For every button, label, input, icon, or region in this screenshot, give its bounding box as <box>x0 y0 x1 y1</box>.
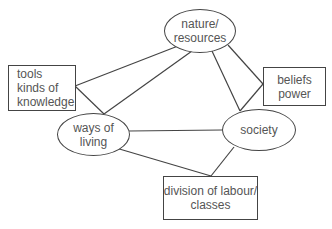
edge-beliefs-society <box>240 84 263 111</box>
node-label-line: living <box>80 135 107 149</box>
node-label-line: power <box>278 87 311 101</box>
node-label-line: tools <box>17 67 42 81</box>
node-label-line: beliefs <box>277 73 312 87</box>
edge-nature-society <box>212 51 240 111</box>
node-label-line: ways of <box>73 121 114 135</box>
edge-tools-ways <box>75 86 104 114</box>
edge-beliefs-nature <box>228 45 263 84</box>
node-label-line: nature/ <box>181 17 218 31</box>
edge-nature-ways <box>104 51 192 114</box>
edge-ways-division <box>116 148 211 176</box>
node-nature-resources: nature/ resources <box>164 9 236 53</box>
edge-society-division <box>211 147 234 176</box>
node-label-line: kinds of <box>17 81 58 95</box>
node-society: society <box>222 109 296 151</box>
edge-tools-nature <box>75 46 178 86</box>
node-label-line: knowledge <box>17 95 74 109</box>
node-tools-knowledge: tools kinds of knowledge <box>8 65 76 111</box>
node-label-line: classes <box>190 198 230 212</box>
node-label-line: division of labour/ <box>164 184 257 198</box>
node-division-of-labour: division of labour/ classes <box>163 176 258 220</box>
edge-ways-society <box>129 130 222 131</box>
node-beliefs-power: beliefs power <box>263 67 326 106</box>
node-ways-of-living: ways of living <box>57 113 130 156</box>
node-label-line: resources <box>174 31 227 45</box>
node-label-line: society <box>240 123 277 137</box>
